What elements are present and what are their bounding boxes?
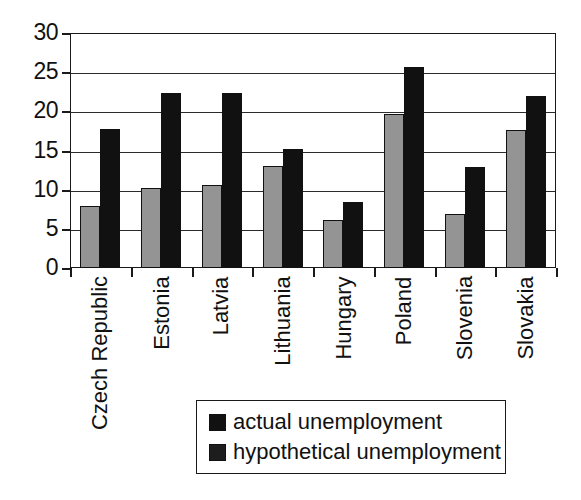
y-axis-tick-label: 10 [0,178,58,201]
bar-actual [202,185,222,268]
x-axis-label-estonia: Estonia [146,276,176,394]
legend-swatch-actual-icon [209,414,226,431]
unemployment-bar-chart: 051015202530 Czech RepublicEstoniaLatvia… [0,0,581,500]
x-axis-label-text: Lithuania [272,276,294,365]
y-axis-tick-label: 25 [0,60,58,83]
legend-label-actual: actual unemployment [233,411,442,433]
bar-actual [384,114,404,268]
y-axis-tick-label: 5 [0,217,58,240]
bar-hypothetical [161,93,181,268]
legend-label-hypothetical: hypothetical unemployment [233,441,501,463]
x-axis-label-text: Slovakia [515,276,537,359]
bar-actual [506,130,526,268]
x-axis-label-text: Hungary [332,276,354,359]
bar-hypothetical [100,129,120,268]
x-axis-label-czech-republic: Czech Republic [85,276,115,394]
x-axis-label-poland: Poland [389,276,419,394]
x-axis-label-hungary: Hungary [328,276,358,394]
legend-entry-actual: actual unemployment [209,407,495,437]
y-axis-tick-label: 20 [0,99,58,122]
x-axis-label-text: Latvia [211,276,233,335]
x-axis-label-text: Slovenia [454,276,476,360]
y-axis-tick-label: 15 [0,139,58,162]
legend-entry-hypothetical: hypothetical unemployment [209,437,495,467]
bar-actual [263,166,283,268]
x-axis-label-text: Czech Republic [89,276,111,430]
x-axis-label-slovenia: Slovenia [450,276,480,394]
chart-legend: actual unemployment hypothetical unemplo… [196,400,506,474]
x-axis-label-slovakia: Slovakia [511,276,541,394]
bar-hypothetical [222,93,242,268]
x-axis-label-text: Poland [393,276,415,345]
bar-hypothetical [343,202,363,268]
x-axis-label-latvia: Latvia [207,276,237,394]
bar-hypothetical [404,67,424,268]
bar-actual [323,220,343,268]
y-axis-tick-label: 0 [0,256,58,279]
x-axis-label-text: Estonia [150,276,172,349]
bar-actual [141,188,161,268]
x-axis-labels: Czech RepublicEstoniaLatviaLithuaniaHung… [70,276,556,396]
bar-hypothetical [283,149,303,268]
bar-actual [445,214,465,268]
y-axis-tick-label: 30 [0,21,58,44]
bar-hypothetical [465,167,485,268]
x-axis-label-lithuania: Lithuania [268,276,298,394]
x-axis-tick-mark [556,268,558,277]
bars-layer [70,33,556,268]
legend-swatch-hypothetical-icon [209,444,226,461]
y-axis-labels: 051015202530 [0,0,62,500]
bar-actual [80,206,100,268]
bar-hypothetical [526,96,546,268]
